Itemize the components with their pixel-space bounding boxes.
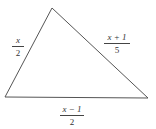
fraction-bar: [60, 115, 84, 116]
right-denominator: 5: [115, 45, 120, 55]
bottom-denominator: 2: [70, 117, 75, 127]
right-numerator: x + 1: [107, 32, 126, 42]
bottom-numerator: x − 1: [62, 104, 81, 114]
left-numerator: x: [16, 35, 20, 45]
left-side-label: x 2: [12, 35, 24, 58]
left-denominator: 2: [16, 48, 21, 58]
fraction-bar: [104, 43, 130, 44]
fraction-bar: [12, 46, 24, 47]
right-side-label: x + 1 5: [104, 32, 130, 55]
bottom-side-label: x − 1 2: [60, 104, 84, 127]
